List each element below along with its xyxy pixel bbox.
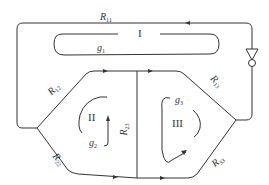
label-g1: g1 bbox=[97, 43, 105, 54]
arrow-r33 bbox=[160, 176, 165, 180]
label-loop-i: I bbox=[138, 28, 142, 39]
branch-r33 bbox=[137, 120, 236, 178]
loop-ii-arrow bbox=[104, 118, 108, 146]
label-loop-ii: II bbox=[88, 112, 95, 123]
fan-icon bbox=[246, 49, 258, 67]
label-g2: g2 bbox=[89, 138, 97, 149]
label-r11: R11 bbox=[100, 12, 112, 23]
arrow-loop-ii bbox=[106, 115, 110, 121]
loop-iii-right bbox=[193, 110, 200, 137]
branch-r12 bbox=[37, 71, 137, 128]
loop-i-curve bbox=[54, 34, 219, 55]
arrow-r12 bbox=[103, 69, 108, 73]
network-diagram bbox=[0, 0, 269, 185]
label-g3: g3 bbox=[175, 95, 183, 106]
arrow-r11 bbox=[185, 21, 190, 25]
label-r23: R23 bbox=[119, 123, 130, 135]
arrow-r13 bbox=[148, 69, 153, 73]
label-loop-iii: III bbox=[172, 118, 183, 129]
arrow-r22 bbox=[113, 175, 118, 179]
